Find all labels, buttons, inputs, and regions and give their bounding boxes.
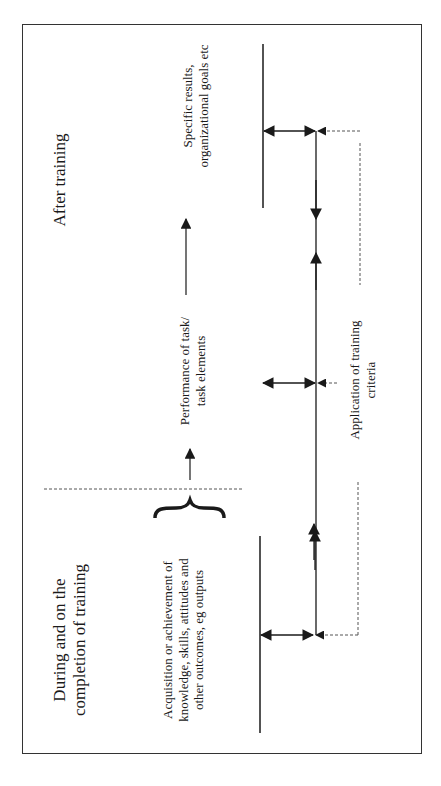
- results-line2: organizational goals etc: [196, 44, 212, 167]
- performance-line2: task elements: [193, 317, 209, 425]
- performance-line1: Performance of task/: [177, 317, 193, 425]
- criteria-line2: criteria: [363, 320, 379, 439]
- phase-heading-after: After training: [50, 134, 70, 227]
- level-acquisition: Acquisition or achievement of knowledge,…: [160, 558, 207, 722]
- acquisition-line1: Acquisition or achievement of: [160, 558, 176, 722]
- results-line1: Specific results,: [180, 44, 196, 167]
- criteria-label: Application of training criteria: [347, 320, 378, 439]
- brace-icon: [155, 500, 224, 518]
- phase-heading-during: During and on the completion of training: [50, 564, 91, 716]
- level-results: Specific results, organizational goals e…: [180, 44, 211, 167]
- phase-during-line2: completion of training: [70, 564, 90, 716]
- phase-after-text: After training: [50, 134, 69, 227]
- acquisition-line2: knowledge, skills, attitudes and: [175, 558, 191, 722]
- criteria-line1: Application of training: [347, 320, 363, 439]
- level-performance: Performance of task/ task elements: [177, 317, 208, 425]
- phase-during-line1: During and on the: [50, 564, 70, 716]
- acquisition-line3: other outcomes, eg outputs: [191, 558, 207, 722]
